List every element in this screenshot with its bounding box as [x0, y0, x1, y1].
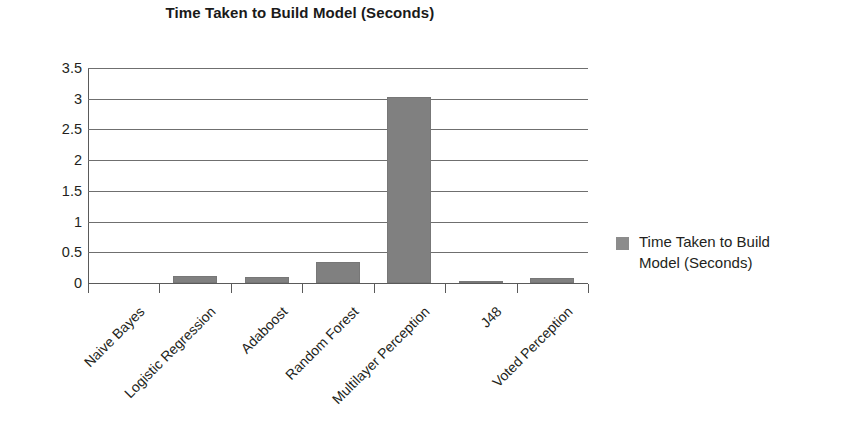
bar-logistic-regression[interactable]	[173, 276, 217, 283]
x-label-random-forest: Random Forest	[282, 303, 362, 383]
bar-adaboost[interactable]	[245, 277, 289, 283]
bar-j48[interactable]	[459, 281, 503, 283]
x-tick-mark	[374, 284, 375, 293]
x-tick-mark	[517, 284, 518, 293]
chart-title: Time Taken to Build Model (Seconds)	[0, 4, 600, 21]
bar-slot	[159, 68, 230, 283]
x-label-j48: J48	[477, 303, 504, 330]
x-tick-mark	[445, 284, 446, 293]
bar-slot	[88, 68, 159, 283]
y-tick-label-0.5: 0.5	[36, 245, 82, 260]
x-label-adaboost: Adaboost	[237, 303, 290, 356]
legend-label-line1: Time Taken to Build	[639, 233, 770, 250]
y-axis-tick-labels: 00.511.522.533.5	[28, 68, 82, 283]
x-tick-mark	[231, 284, 232, 293]
x-tick-mark	[159, 284, 160, 293]
y-tick-label-1.5: 1.5	[36, 184, 82, 199]
bar-slot	[231, 68, 302, 283]
plot-area	[88, 68, 588, 283]
y-tick-label-1: 1	[36, 214, 82, 229]
bar-multilayer-perception[interactable]	[387, 97, 431, 283]
bar-slot	[302, 68, 373, 283]
bar-slot	[445, 68, 516, 283]
bar-voted-perception[interactable]	[530, 278, 574, 283]
x-tick-mark	[88, 284, 89, 293]
y-tick-label-3.5: 3.5	[36, 61, 82, 76]
legend-swatch-icon	[616, 237, 629, 250]
x-label-naive-bayes: Naive Bayes	[80, 303, 147, 370]
bar-slot	[517, 68, 588, 283]
y-tick-label-0: 0	[36, 276, 82, 291]
chart-legend: Time Taken to Build Model (Seconds)	[616, 232, 836, 273]
x-tick-mark	[302, 284, 303, 293]
legend-label: Time Taken to Build Model (Seconds)	[639, 232, 770, 273]
bar-slot	[374, 68, 445, 283]
legend-label-line2: Model (Seconds)	[639, 254, 752, 271]
y-tick-label-3: 3	[36, 91, 82, 106]
bar-random-forest[interactable]	[316, 262, 360, 283]
y-tick-label-2.5: 2.5	[36, 122, 82, 137]
gridline-0	[88, 283, 588, 284]
x-tick-mark	[588, 284, 589, 293]
y-tick-label-2: 2	[36, 153, 82, 168]
